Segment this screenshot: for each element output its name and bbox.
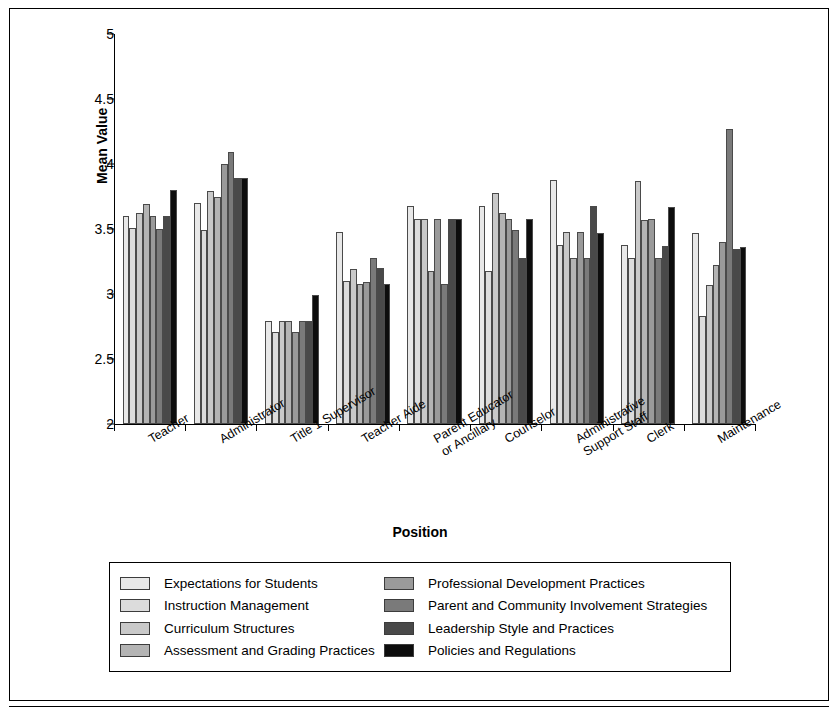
legend-item: Instruction Management <box>120 595 384 617</box>
bar <box>407 206 414 424</box>
bar <box>143 204 150 424</box>
bar <box>713 265 720 424</box>
bar-group <box>621 34 675 424</box>
bar <box>299 321 306 424</box>
y-tick-mark <box>107 34 114 35</box>
bar <box>699 316 706 424</box>
bar-group <box>265 34 319 424</box>
bar <box>557 245 564 424</box>
legend-swatch <box>384 622 414 635</box>
legend-swatch <box>384 577 414 590</box>
x-tick-mark <box>684 424 685 431</box>
bar <box>201 230 208 424</box>
legend-swatch <box>120 622 150 635</box>
bar <box>692 233 699 424</box>
bar <box>668 207 675 424</box>
bar-group <box>550 34 604 424</box>
legend-item: Leadership Style and Practices <box>384 617 720 639</box>
legend-item: Curriculum Structures <box>120 617 384 639</box>
bar <box>519 258 526 424</box>
bar <box>129 228 136 424</box>
y-axis-title: Mean Value <box>94 108 110 184</box>
figure-bottom-rule <box>9 706 829 707</box>
bar <box>221 164 228 424</box>
bar <box>641 220 648 424</box>
bar <box>635 181 642 424</box>
x-tick-mark <box>114 424 115 431</box>
legend-swatch <box>384 599 414 612</box>
bar <box>156 229 163 424</box>
bar <box>377 268 384 424</box>
legend-label: Policies and Regulations <box>428 643 576 658</box>
bar <box>214 197 221 425</box>
bar <box>234 178 241 424</box>
bar <box>597 233 604 424</box>
bar-group <box>194 34 248 424</box>
legend-label: Assessment and Grading Practices <box>164 643 375 658</box>
bar <box>621 245 628 424</box>
legend-label: Curriculum Structures <box>164 621 295 636</box>
bar <box>590 206 597 424</box>
legend-label: Instruction Management <box>164 598 309 613</box>
legend-swatch <box>120 577 150 590</box>
bar-group <box>123 34 177 424</box>
legend-item: Professional Development Practices <box>384 572 720 594</box>
bar-group <box>407 34 461 424</box>
legend-label: Parent and Community Involvement Strateg… <box>428 598 707 613</box>
y-tick-mark <box>107 294 114 295</box>
bar <box>150 216 157 424</box>
chart-page: Mean Value 22.533.544.55 TeacherAdminist… <box>0 0 840 727</box>
bar <box>563 232 570 424</box>
bar <box>441 284 448 424</box>
bar <box>719 242 726 424</box>
legend-label: Professional Development Practices <box>428 576 645 591</box>
bar <box>123 216 130 424</box>
y-tick-mark <box>107 424 114 425</box>
bar <box>306 321 313 424</box>
legend-swatch <box>120 599 150 612</box>
bar <box>448 219 455 424</box>
bar <box>550 180 557 424</box>
legend-item: Assessment and Grading Practices <box>120 640 384 662</box>
bar <box>292 332 299 424</box>
plot-area <box>114 34 755 424</box>
bar <box>336 232 343 424</box>
y-tick-mark <box>107 229 114 230</box>
plot-wrapper: Mean Value 22.533.544.55 TeacherAdminist… <box>80 34 755 424</box>
bar <box>421 219 428 424</box>
bar <box>526 219 533 424</box>
bar <box>207 191 214 424</box>
bar <box>655 258 662 424</box>
y-tick-mark <box>107 99 114 100</box>
bar <box>428 271 435 424</box>
bar <box>384 284 391 424</box>
bar <box>733 249 740 425</box>
legend-item: Parent and Community Involvement Strateg… <box>384 595 720 617</box>
bar <box>312 295 319 424</box>
bar <box>479 206 486 424</box>
bar <box>584 258 591 424</box>
bar <box>163 216 170 424</box>
bar <box>434 219 441 424</box>
bar-group <box>692 34 746 424</box>
bar <box>136 213 143 424</box>
bar-group <box>479 34 533 424</box>
bar <box>194 203 201 424</box>
bar <box>706 285 713 424</box>
bar <box>726 129 733 424</box>
bar <box>170 190 177 424</box>
y-tick-mark <box>107 164 114 165</box>
legend-swatch <box>120 644 150 657</box>
bar <box>228 152 235 424</box>
bar <box>648 219 655 424</box>
bar <box>455 219 462 424</box>
bar <box>570 258 577 424</box>
legend-item: Expectations for Students <box>120 572 384 594</box>
bar-group <box>336 34 390 424</box>
legend-item: Policies and Regulations <box>384 640 720 662</box>
bar <box>740 247 747 424</box>
x-axis-title: Position <box>0 524 840 540</box>
legend-swatch <box>384 644 414 657</box>
y-tick-mark <box>107 359 114 360</box>
bar <box>241 178 248 424</box>
